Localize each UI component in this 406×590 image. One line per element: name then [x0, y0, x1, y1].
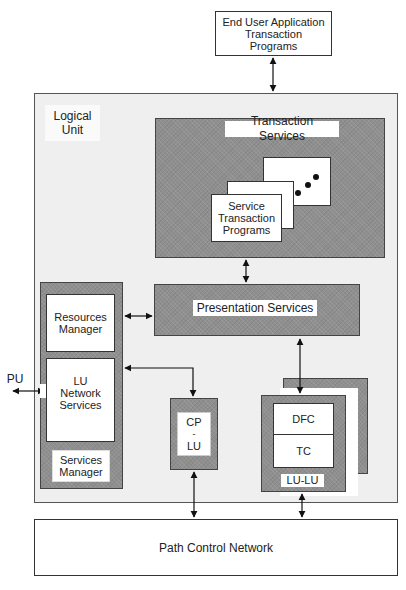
- connector-lines: [0, 0, 406, 590]
- pu-port-gap: [40, 384, 46, 398]
- arrow-luns-cplu: [125, 368, 193, 396]
